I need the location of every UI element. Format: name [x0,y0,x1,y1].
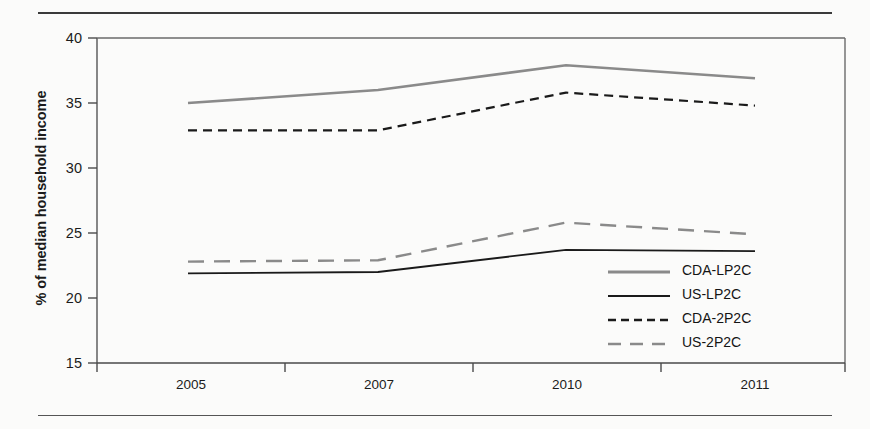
legend-item-us-lp2c: US-LP2C [608,282,818,306]
legend-swatch-cda-2p2c [608,312,670,324]
legend-item-cda-lp2c: CDA-LP2C [608,258,818,282]
legend-label-us-2p2c: US-2P2C [682,334,741,350]
legend-label-us-lp2c: US-LP2C [682,286,741,302]
chart-legend: CDA-LP2C US-LP2C CDA-2P2C US-2P2C [608,258,818,354]
figure-container: % of median household income 40 35 30 25… [0,0,870,429]
series-line-cda-lp2c [188,65,755,103]
legend-swatch-us-2p2c [608,336,670,348]
chart-svg [0,0,870,429]
legend-item-cda-2p2c: CDA-2P2C [608,306,818,330]
series-line-us-2p2c [188,223,755,262]
legend-item-us-2p2c: US-2P2C [608,330,818,354]
legend-swatch-cda-lp2c [608,264,670,276]
chart-plot-area: % of median household income 40 35 30 25… [0,0,870,429]
legend-swatch-us-lp2c [608,288,670,300]
legend-label-cda-lp2c: CDA-LP2C [682,262,751,278]
legend-label-cda-2p2c: CDA-2P2C [682,310,751,326]
